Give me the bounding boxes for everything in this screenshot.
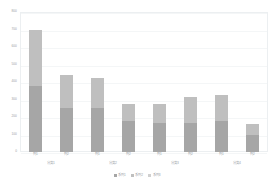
x-axis-tick-label: 列1	[157, 153, 162, 156]
bar[interactable]	[91, 78, 104, 152]
x-axis-tick-label: 列2	[188, 153, 193, 156]
x-axis-group-label: 分类4	[233, 162, 241, 166]
x-axis-tick-label: 列1	[219, 153, 224, 156]
stacked-bar-chart: 8007006005004003002001000 列1列2列1列2列1列2列1…	[0, 0, 274, 186]
y-axis: 8007006005004003002001000	[0, 12, 19, 152]
y-axis-tick-label: 0	[15, 150, 17, 153]
x-axis-tick-label: 列1	[33, 153, 38, 156]
bar-segment[interactable]	[215, 121, 228, 152]
bar-segment[interactable]	[60, 108, 73, 152]
bar-segment[interactable]	[91, 78, 104, 109]
bar[interactable]	[153, 104, 166, 152]
x-axis-group-label: 分类1	[47, 162, 55, 166]
x-axis-tick-label: 列1	[95, 153, 100, 156]
bar-segment[interactable]	[184, 123, 197, 152]
bar-segment[interactable]	[122, 104, 135, 121]
y-axis-tick-label: 400	[11, 80, 17, 83]
y-axis-tick-label: 200	[11, 115, 17, 118]
legend-item[interactable]: 系列2	[131, 174, 143, 177]
bar-segment[interactable]	[153, 104, 166, 123]
bar[interactable]	[215, 95, 228, 152]
bars-layer	[20, 12, 268, 152]
bar-segment[interactable]	[60, 75, 73, 108]
y-axis-tick-label: 100	[11, 133, 17, 136]
bar-segment[interactable]	[246, 124, 259, 135]
bar-segment[interactable]	[122, 121, 135, 153]
legend-swatch	[114, 174, 117, 177]
legend-swatch	[131, 174, 134, 177]
legend-item[interactable]: 系列3	[148, 174, 160, 177]
x-axis-group-label: 分类3	[171, 162, 179, 166]
bar[interactable]	[60, 75, 73, 152]
bar[interactable]	[246, 124, 259, 152]
y-axis-tick-label: 600	[11, 45, 17, 48]
bar-segment[interactable]	[246, 135, 259, 152]
bar[interactable]	[184, 97, 197, 152]
y-axis-tick-label: 800	[11, 10, 17, 13]
bar-segment[interactable]	[29, 86, 42, 153]
y-axis-tick-label: 700	[11, 28, 17, 31]
bar[interactable]	[29, 30, 42, 152]
x-axis-group-label: 分类2	[109, 162, 117, 166]
y-axis-tick-label: 500	[11, 63, 17, 66]
bar-segment[interactable]	[91, 108, 104, 152]
x-axis-group-labels: 分类1分类2分类3分类4	[20, 162, 268, 171]
legend-item[interactable]: 系列1	[114, 174, 126, 177]
bar-segment[interactable]	[153, 123, 166, 152]
legend-label: 系列1	[118, 174, 126, 177]
legend-label: 系列2	[135, 174, 143, 177]
x-axis-tick-label: 列2	[64, 153, 69, 156]
legend-label: 系列3	[153, 174, 161, 177]
x-axis-tick-label: 列2	[126, 153, 131, 156]
x-axis-tick-label: 列2	[250, 153, 255, 156]
bar-segment[interactable]	[184, 97, 197, 123]
legend-swatch	[148, 174, 151, 177]
y-axis-tick-label: 300	[11, 98, 17, 101]
bar-segment[interactable]	[215, 95, 228, 121]
x-axis-category-labels: 列1列2列1列2列1列2列1列2	[20, 153, 268, 162]
legend: 系列1系列2系列3	[0, 174, 274, 177]
bar-segment[interactable]	[29, 30, 42, 85]
bar[interactable]	[122, 104, 135, 152]
